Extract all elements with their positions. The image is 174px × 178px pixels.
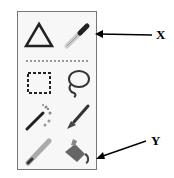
annotation-label-x: X [156, 27, 165, 43]
annotation-label-y: Y [151, 133, 160, 149]
annotation-arrows [0, 0, 174, 178]
